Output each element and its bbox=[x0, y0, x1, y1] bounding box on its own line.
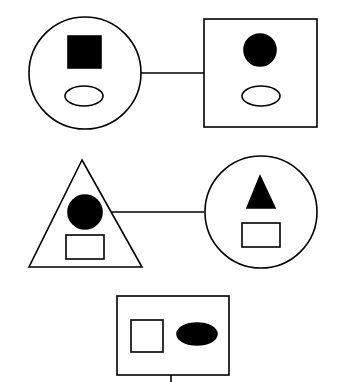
row2-left-filled-circle bbox=[68, 195, 102, 229]
row-3 bbox=[117, 296, 229, 382]
row2-right-hollow-rectangle bbox=[242, 223, 280, 247]
row-2 bbox=[29, 156, 317, 268]
row1-left-filled-square bbox=[68, 36, 101, 68]
row2-right-outer-circle bbox=[205, 156, 317, 268]
row1-right-filled-circle bbox=[244, 34, 276, 66]
analogy-diagram bbox=[0, 0, 346, 382]
row1-right-hollow-ellipse bbox=[242, 86, 280, 106]
row2-left-hollow-rectangle bbox=[66, 235, 104, 259]
row3-hollow-square bbox=[131, 320, 163, 352]
row2-right-filled-triangle bbox=[247, 176, 275, 208]
row-1 bbox=[29, 17, 317, 129]
row3-filled-ellipse bbox=[177, 323, 217, 345]
row1-left-hollow-ellipse bbox=[65, 86, 103, 106]
row1-left-outer-circle bbox=[29, 17, 141, 129]
